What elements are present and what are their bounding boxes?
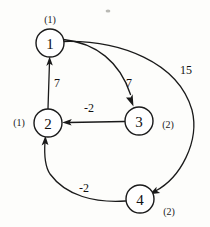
- arrowhead-into-node-3: [126, 94, 134, 106]
- edge-4-to-2: -2: [42, 136, 126, 202]
- node-3[interactable]: 3 (2): [125, 107, 174, 135]
- edge-2-to-1: 7: [46, 57, 60, 109]
- node-4-label: 4: [136, 192, 144, 208]
- edge-weight-3-to-2: -2: [84, 101, 94, 115]
- node-3-annotation: (2): [162, 119, 174, 131]
- edge-3-to-2: -2: [62, 101, 124, 126]
- edge-weight-2-to-1: 7: [54, 76, 60, 90]
- edge-weight-1-to-4: 15: [180, 63, 192, 77]
- edge-2-to-1-line: [48, 62, 50, 109]
- node-4-annotation: (2): [163, 206, 175, 218]
- node-2[interactable]: 2 (1): [13, 109, 62, 137]
- diagram-canvas: 7 7 -2 15 -2 1 (1): [0, 0, 210, 227]
- node-2-annotation: (1): [13, 117, 25, 129]
- graph-svg: 7 7 -2 15 -2 1 (1): [0, 0, 210, 227]
- node-2-label: 2: [44, 116, 52, 132]
- node-4[interactable]: 4 (2): [126, 185, 175, 218]
- scan-artifact-speck: [106, 9, 111, 12]
- node-1[interactable]: 1 (1): [36, 14, 64, 58]
- node-3-label: 3: [135, 114, 143, 130]
- node-1-annotation: (1): [44, 14, 56, 26]
- edge-weight-4-to-2: -2: [79, 181, 89, 195]
- node-1-label: 1: [46, 36, 54, 52]
- edge-weight-1-to-3: 7: [126, 76, 132, 90]
- edge-3-to-2-line: [68, 122, 125, 123]
